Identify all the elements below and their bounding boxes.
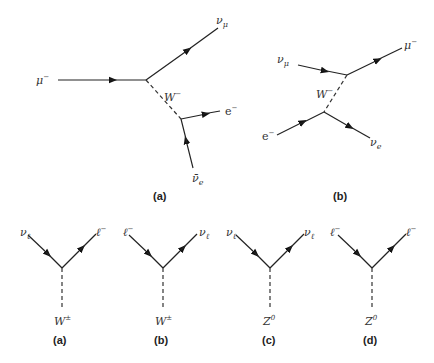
label-electron: e− xyxy=(225,104,238,118)
label-right: ℓ− xyxy=(96,225,107,239)
label-left: νℓ xyxy=(20,226,31,241)
electron-line xyxy=(181,114,206,119)
label-nu-mu: νμ xyxy=(277,53,289,68)
label-boson: W± xyxy=(155,314,172,328)
caption-top-a: (a) xyxy=(153,190,167,202)
label-left: ℓ− xyxy=(123,225,134,239)
label-electron: e− xyxy=(262,129,275,143)
label-right: νℓ xyxy=(199,226,210,241)
vertex-diagram-c: νℓ νℓ Z0 (c) xyxy=(226,226,315,346)
label-nu-e: νe xyxy=(370,136,382,151)
caption-vertex-c: (c) xyxy=(262,334,276,346)
label-muon: μ− xyxy=(36,73,49,87)
diagram-top-b: νμ μ− W− e− νe (b) xyxy=(262,38,417,202)
label-w-boson: W− xyxy=(164,90,181,104)
muon-line xyxy=(347,60,378,75)
vertex-diagram-a: νℓ ℓ− W± (a) xyxy=(20,225,107,346)
caption-vertex-a: (a) xyxy=(53,334,67,346)
nu-mu-line xyxy=(146,50,188,80)
caption-top-b: (b) xyxy=(333,190,347,202)
label-left: ℓ− xyxy=(330,225,341,239)
label-right: νℓ xyxy=(304,226,315,241)
vertex-diagram-b: ℓ− νℓ W± (b) xyxy=(123,225,210,346)
label-antineutrino-e: ν̄e xyxy=(192,172,204,187)
label-right: ℓ− xyxy=(406,225,417,239)
label-boson: Z0 xyxy=(262,314,276,328)
label-left: νℓ xyxy=(226,226,237,241)
label-nu-mu: νμ xyxy=(216,14,228,29)
label-boson: W± xyxy=(54,314,71,328)
antineutrino-line xyxy=(186,140,193,168)
label-muon: μ− xyxy=(404,38,417,52)
nu-mu-line xyxy=(298,65,325,71)
caption-vertex-d: (d) xyxy=(363,334,377,346)
label-boson: Z0 xyxy=(364,314,378,328)
caption-vertex-b: (b) xyxy=(154,334,168,346)
electron-line xyxy=(277,122,303,135)
feynman-diagrams-figure: μ− νμ W− e− ν̄e (a) νμ μ− W− e− νe (b) xyxy=(0,0,434,363)
nu-e-line xyxy=(324,112,350,127)
diagram-top-a: μ− νμ W− e− ν̄e (a) xyxy=(36,14,238,202)
vertex-diagram-d: ℓ− ℓ− Z0 (d) xyxy=(330,225,417,346)
label-w-boson: W− xyxy=(316,87,333,101)
